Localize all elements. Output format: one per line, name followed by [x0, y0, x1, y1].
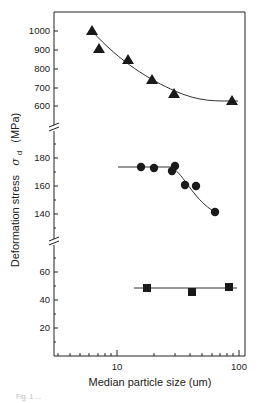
y-tick-label: 800: [34, 63, 50, 74]
y-axis-title-main: Deformation stress: [9, 174, 21, 267]
fit-curves: [92, 31, 238, 288]
x-tick-label: 100: [231, 361, 247, 372]
y-axis-unit: (MPa): [9, 113, 21, 143]
circle-marker: [150, 164, 158, 172]
y-tick-label: 60: [39, 266, 50, 277]
y-tick-label: 40: [39, 294, 50, 305]
series-circles: [137, 162, 219, 216]
x-ticks: [58, 350, 239, 356]
sigma-symbol: σ: [9, 158, 22, 166]
x-tick-label: 10: [112, 361, 123, 372]
triangle-marker: [168, 88, 180, 98]
y-tick-label: 140: [34, 208, 50, 219]
circle-marker: [181, 181, 189, 189]
square-marker: [188, 288, 196, 296]
figure-caption: Fig. 1 ...: [16, 393, 252, 401]
y-tick-label: 20: [39, 322, 50, 333]
y-tick-label: 160: [34, 180, 50, 191]
circle-marker: [192, 182, 200, 190]
circle-marker: [211, 208, 219, 216]
circle-marker: [137, 163, 145, 171]
y-tick-label: 700: [34, 82, 50, 93]
y-tick-label: 600: [34, 100, 50, 111]
circle-marker: [168, 167, 176, 175]
square-marker: [143, 284, 151, 292]
triangle-marker: [146, 74, 158, 84]
triangle-marker: [93, 43, 105, 53]
triangle-marker: [226, 95, 238, 105]
series-triangles: [86, 25, 238, 105]
chart: 1000 900 800 700 600 180 160 140 60 40 2…: [0, 0, 264, 403]
y-axis-title: Deformation stress σ d (MPa): [9, 113, 24, 267]
triangle-fit-curve: [92, 31, 238, 101]
y-tick-labels: 1000 900 800 700 600 180 160 140 60 40 2…: [29, 25, 50, 333]
series-squares: [143, 283, 233, 296]
sigma-subscript: d: [15, 151, 24, 155]
triangle-marker: [122, 54, 134, 64]
x-axis-title: Median particle size (um): [89, 376, 212, 388]
y-ticks: [54, 31, 58, 342]
square-marker: [225, 283, 233, 291]
triangle-marker: [86, 25, 98, 35]
plot-frame: [54, 12, 245, 356]
y-tick-label: 180: [34, 152, 50, 163]
svg-text:Deformation stress σ: Deformation stress σ d (MPa): [9, 113, 24, 267]
y-tick-label: 900: [34, 44, 50, 55]
y-tick-label: 1000: [29, 25, 50, 36]
circle-fit-curve: [118, 167, 215, 212]
x-tick-labels: 10 100: [112, 361, 247, 372]
